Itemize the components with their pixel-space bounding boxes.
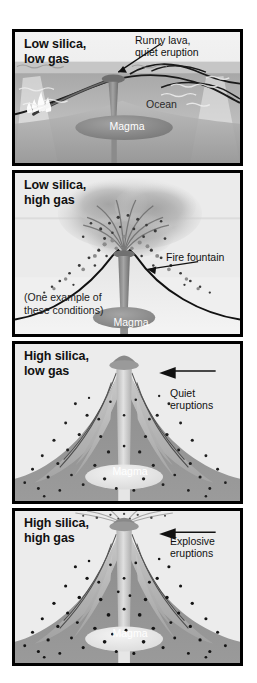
panel3-magma-label: Magma: [99, 465, 161, 477]
panel1-magma-label: Magma: [92, 120, 162, 132]
panel4-callout-explosive-eruptions: Explosive eruptions: [170, 535, 215, 559]
panel-low-silica-high-gas: Low silica, high gas Fire fountain (One …: [12, 170, 243, 337]
panel2-note: (One example of these conditions): [24, 291, 103, 317]
panel2-magma-label: Magma: [101, 316, 161, 328]
panel2-title: Low silica, high gas: [24, 178, 86, 208]
panel1-title: Low silica, low gas: [24, 37, 86, 67]
panel-high-silica-high-gas: High silica, high gas Explosive eruption…: [12, 508, 243, 666]
panel2-callout-fire-fountain: Fire fountain: [166, 251, 224, 263]
panel-high-silica-low-gas: High silica, low gas Quiet eruptions Mag…: [12, 341, 243, 504]
panel4-title: High silica, high gas: [24, 516, 89, 546]
panel1-ocean-label: Ocean: [146, 98, 177, 110]
panel-low-silica-low-gas: Low silica, low gas Runny lava, quiet er…: [12, 29, 243, 166]
panel3-callout-quiet-eruptions: Quiet eruptions: [170, 387, 213, 411]
eruption-style-figure: Low silica, low gas Runny lava, quiet er…: [12, 29, 243, 666]
panel1-callout-runny-lava: Runny lava, quiet eruption: [135, 34, 199, 58]
panel3-title: High silica, low gas: [24, 349, 89, 379]
panel4-magma-label: Magma: [99, 627, 161, 639]
